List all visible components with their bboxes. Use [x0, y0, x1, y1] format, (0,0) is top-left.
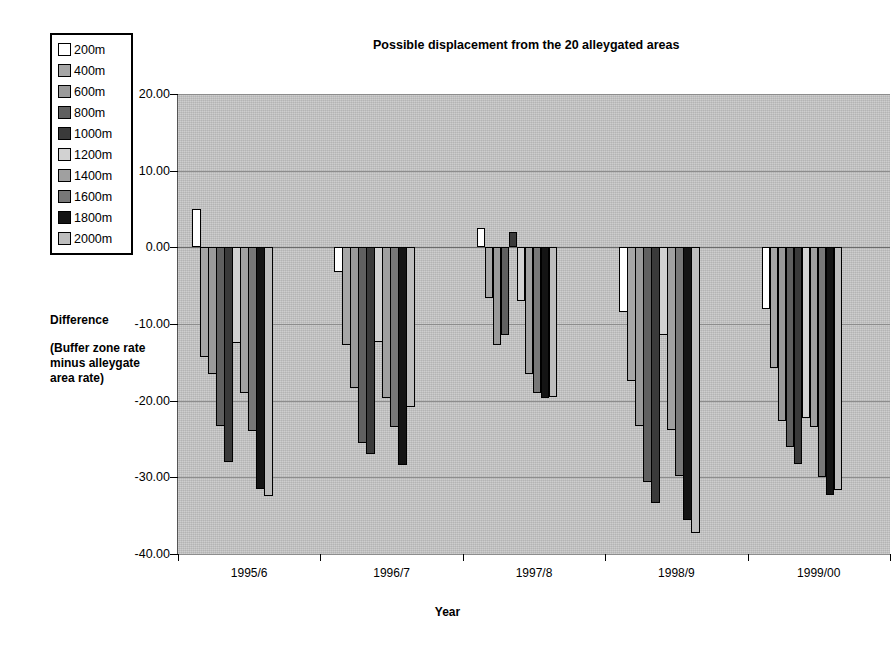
legend-swatch-icon: [58, 85, 71, 98]
bar: [818, 247, 827, 477]
y-axis-title: Difference (Buffer zone rate minus alley…: [50, 313, 160, 386]
bar: [786, 247, 795, 447]
bar-group: [605, 94, 747, 554]
bar: [549, 247, 558, 397]
bar: [350, 247, 359, 387]
bar: [240, 247, 249, 393]
x-axis-tick-label: 1995/6: [209, 566, 289, 580]
y-axis-tick-mark: [170, 324, 178, 325]
legend-swatch-icon: [58, 64, 71, 77]
x-axis-tick-label: 1998/9: [636, 566, 716, 580]
legend-swatch-icon: [58, 127, 71, 140]
bar: [675, 247, 684, 475]
legend-swatch-icon: [58, 190, 71, 203]
bar: [406, 247, 415, 406]
x-axis-tick-mark: [463, 554, 464, 561]
bar: [509, 232, 518, 247]
bar: [358, 247, 367, 443]
plot-area: [178, 94, 890, 554]
y-axis-tick-mark: [170, 477, 178, 478]
legend-item: 1800m: [58, 207, 127, 228]
bar: [778, 247, 787, 421]
x-axis-tick-mark: [178, 554, 179, 561]
bar: [651, 247, 660, 503]
legend-item: 400m: [58, 60, 127, 81]
bar: [200, 247, 209, 357]
bar: [794, 247, 803, 464]
legend-swatch-icon: [58, 232, 71, 245]
y-axis-title-line2: (Buffer zone rate minus alleygate area r…: [50, 341, 160, 386]
bar: [192, 209, 201, 247]
legend-item-label: 200m: [74, 44, 105, 56]
bar: [224, 247, 233, 462]
legend-item-label: 800m: [74, 107, 105, 119]
bar-group: [178, 94, 320, 554]
x-axis-tick-label: 1996/7: [352, 566, 432, 580]
y-axis-title-line1: Difference: [50, 313, 160, 328]
bar: [619, 247, 628, 312]
legend-item: 200m: [58, 39, 127, 60]
legend-item: 1000m: [58, 123, 127, 144]
bar: [501, 247, 510, 335]
chart-title: Possible displacement from the 20 alleyg…: [373, 38, 679, 52]
legend-swatch-icon: [58, 211, 71, 224]
y-axis-tick-mark: [170, 554, 178, 555]
legend-item: 2000m: [58, 228, 127, 249]
bar: [334, 247, 343, 272]
bar-group: [463, 94, 605, 554]
bar: [627, 247, 636, 381]
bar: [398, 247, 407, 465]
legend-item-label: 1400m: [74, 170, 112, 182]
x-axis-tick-label: 1997/8: [494, 566, 574, 580]
y-axis-tick-label: -40.00: [106, 547, 170, 561]
legend-item: 1600m: [58, 186, 127, 207]
legend-item-label: 1200m: [74, 149, 112, 161]
y-axis-tick-label: -30.00: [106, 470, 170, 484]
bar: [525, 247, 534, 374]
x-axis-title: Year: [0, 605, 895, 619]
bar: [834, 247, 843, 490]
legend-item: 600m: [58, 81, 127, 102]
bar: [810, 247, 819, 427]
bar: [374, 247, 383, 341]
bar: [533, 247, 542, 393]
legend-item: 800m: [58, 102, 127, 123]
legend-item-label: 400m: [74, 65, 105, 77]
x-axis-tick-mark: [748, 554, 749, 561]
legend-item-label: 1000m: [74, 128, 112, 140]
bar: [762, 247, 771, 308]
y-axis-tick-mark: [170, 401, 178, 402]
legend-item-label: 1800m: [74, 212, 112, 224]
bar: [248, 247, 257, 431]
bar: [802, 247, 811, 417]
bar: [477, 228, 486, 247]
legend-item: 1400m: [58, 165, 127, 186]
bar: [643, 247, 652, 482]
bar: [541, 247, 550, 397]
y-axis-tick-label: -20.00: [106, 394, 170, 408]
bar: [232, 247, 241, 343]
bar: [667, 247, 676, 429]
legend-item-label: 1600m: [74, 191, 112, 203]
x-axis-tick-label: 1999/00: [779, 566, 859, 580]
legend-swatch-icon: [58, 106, 71, 119]
bar: [342, 247, 351, 345]
bar: [366, 247, 375, 454]
legend-swatch-icon: [58, 148, 71, 161]
bar: [256, 247, 265, 489]
bar: [216, 247, 225, 426]
bar-group: [320, 94, 462, 554]
legend: 200m400m600m800m1000m1200m1400m1600m1800…: [50, 33, 133, 255]
legend-swatch-icon: [58, 169, 71, 182]
bar: [493, 247, 502, 345]
legend-swatch-icon: [58, 43, 71, 56]
y-axis-tick-mark: [170, 247, 178, 248]
bar: [208, 247, 217, 374]
bar: [382, 247, 391, 397]
x-axis-tick-mark: [320, 554, 321, 561]
bar: [264, 247, 273, 496]
legend-item-label: 2000m: [74, 233, 112, 245]
x-axis-tick-mark: [605, 554, 606, 561]
bar: [390, 247, 399, 427]
y-axis-tick-mark: [170, 94, 178, 95]
